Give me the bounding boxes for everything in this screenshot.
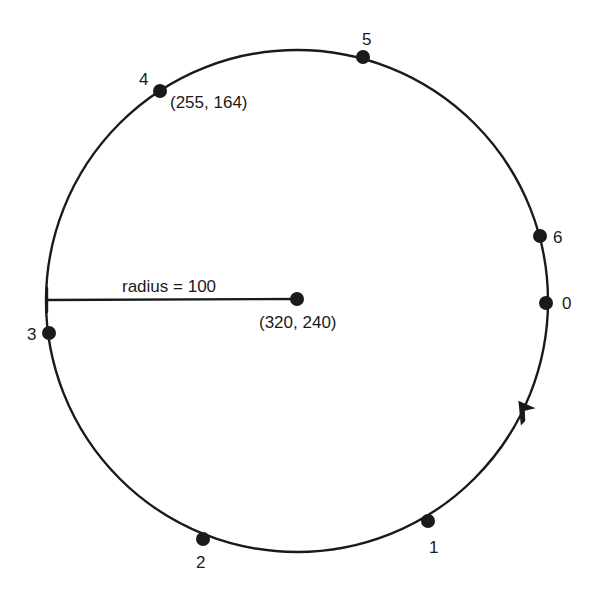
point-label-0: 0 <box>562 294 571 313</box>
point-dot-5 <box>356 50 370 64</box>
point-dot-4 <box>153 84 167 98</box>
circle-diagram-svg: radius = 100 (320, 240) (255, 164) 0 1 2… <box>0 0 599 597</box>
center-point-dot <box>290 292 304 306</box>
center-coordinate-label: (320, 240) <box>259 313 337 332</box>
point-label-2: 2 <box>196 553 205 572</box>
point-dot-1 <box>421 514 435 528</box>
radius-label: radius = 100 <box>122 277 216 296</box>
point-dot-2 <box>196 532 210 546</box>
point-label-4: 4 <box>139 70 148 89</box>
point-dot-3 <box>42 326 56 340</box>
point-dot-6 <box>533 229 547 243</box>
point-label-6: 6 <box>553 228 562 247</box>
point-label-3: 3 <box>27 325 36 344</box>
circle-diagram-canvas: radius = 100 (320, 240) (255, 164) 0 1 2… <box>0 0 599 597</box>
point-dot-0 <box>539 296 553 310</box>
radius-line <box>47 299 296 300</box>
point-label-1: 1 <box>429 538 438 557</box>
point-label-5: 5 <box>362 30 371 49</box>
point-4-coordinate-label: (255, 164) <box>170 93 248 112</box>
